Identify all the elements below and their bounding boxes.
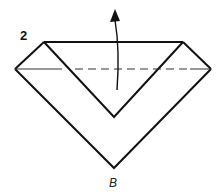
fold-arrow-head-icon	[110, 9, 120, 22]
upper-right-edge	[183, 42, 211, 69]
outer-v-edge	[15, 69, 211, 168]
step-number: 2	[20, 28, 27, 43]
fold-arrow-shaft	[115, 20, 118, 90]
fold-diagram-canvas	[0, 0, 224, 194]
point-label-b: B	[109, 176, 117, 190]
inner-v-edge	[44, 42, 183, 117]
upper-left-edge	[15, 42, 44, 69]
